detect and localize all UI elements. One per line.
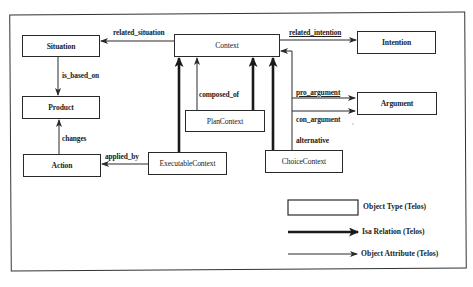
legend-isa-relation-label: Isa Relation (Telos) xyxy=(362,227,425,236)
label-related-intention: related_intention xyxy=(289,28,341,37)
node-intention: Intention xyxy=(357,31,436,54)
legend-object-type-swatch xyxy=(288,200,358,215)
node-context: Context xyxy=(174,34,280,57)
diagram-canvas: Situation Context Intention Product Argu… xyxy=(0,0,473,287)
label-con-argument: con_argument xyxy=(296,115,340,124)
node-action: Action xyxy=(23,154,101,177)
node-choicecontext: ChoiceContext xyxy=(265,150,343,173)
node-product: Product xyxy=(22,96,100,119)
label-related-situation: related_situation xyxy=(113,28,165,37)
label-applied-by: applied_by xyxy=(105,152,139,161)
legend-object-type-label: Object Type (Telos) xyxy=(363,202,426,211)
label-is-based-on: is_based_on xyxy=(62,71,99,80)
label-changes: changes xyxy=(62,134,86,143)
node-argument: Argument xyxy=(357,92,437,115)
node-situation: Situation xyxy=(22,35,100,57)
node-plancontext: PlanContext xyxy=(185,110,265,132)
label-alternative: alternative xyxy=(296,136,329,145)
label-composed-of: composed_of xyxy=(199,90,239,99)
node-executablecontext: ExecutableContext xyxy=(148,152,227,175)
edge-alternative xyxy=(281,51,292,150)
scan-speck xyxy=(352,123,353,124)
label-pro-argument: pro_argument xyxy=(296,88,340,97)
legend-object-attribute-label: Object Attribute (Telos) xyxy=(361,249,438,258)
